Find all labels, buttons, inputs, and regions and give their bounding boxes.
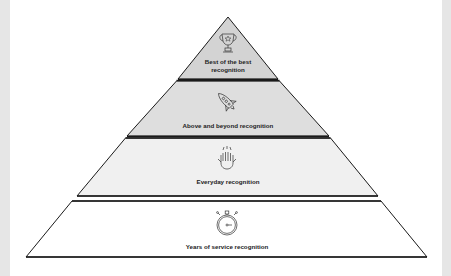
tier-1-label-line-1: Best of the best bbox=[205, 58, 251, 65]
tier-above-and-beyond: Above and beyond recognition bbox=[127, 81, 329, 137]
tier-3-label: Everyday recognition bbox=[197, 178, 260, 185]
tier-everyday: Everyday recognition bbox=[77, 138, 378, 196]
tier-4-label: Years of service recognition bbox=[186, 243, 269, 250]
tier-years-of-service: Years of service recognition bbox=[26, 201, 427, 257]
tier-best-of-the-best: Best of the best recognition bbox=[178, 17, 278, 80]
tier-1-label-line-2: recognition bbox=[211, 66, 245, 73]
recognition-pyramid: Best of the best recognition Above and b… bbox=[0, 0, 451, 276]
tier-2-label: Above and beyond recognition bbox=[183, 122, 274, 129]
